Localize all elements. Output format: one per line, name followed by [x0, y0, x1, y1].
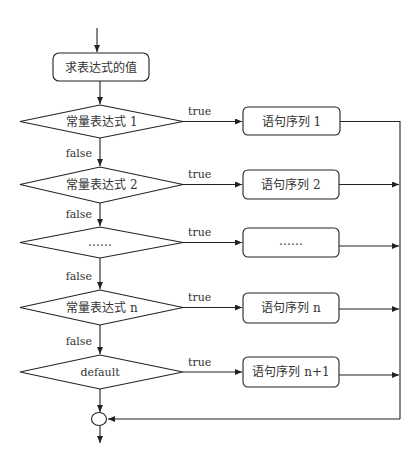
statement-3-label: …… [279, 234, 303, 248]
decision-3: …… [20, 227, 183, 258]
start-box: 求表达式的值 [53, 53, 149, 81]
decision-2: 常量表达式 2 [20, 167, 183, 203]
statement-box-1: 语句序列 1 [243, 107, 340, 135]
decision-default-label: default [80, 366, 120, 379]
decision-default: default [20, 355, 183, 389]
statement-box-3: …… [243, 228, 339, 257]
true-label-3: true [188, 226, 211, 239]
false-label-2: false [66, 208, 92, 221]
true-label-default: true [188, 356, 211, 369]
decision-n: 常量表达式 n [20, 290, 183, 325]
decision-2-label: 常量表达式 2 [66, 178, 137, 192]
false-label-n: false [66, 335, 92, 348]
statement-box-2: 语句序列 2 [243, 170, 339, 199]
decision-n-label: 常量表达式 n [66, 301, 138, 315]
decision-1: 常量表达式 1 [20, 105, 183, 138]
switch-flowchart: 求表达式的值 常量表达式 1 true 语句序列 1 false 常量表达式 2… [0, 0, 412, 456]
merge-line-right [340, 122, 400, 420]
statement-n-label: 语句序列 n [261, 300, 321, 315]
false-label-1: false [66, 147, 92, 160]
statement-2-label: 语句序列 2 [261, 177, 320, 192]
decision-3-label: …… [88, 235, 112, 249]
statement-1-label: 语句序列 1 [262, 114, 321, 129]
false-label-3: false [66, 270, 92, 283]
statement-default-label: 语句序列 n+1 [252, 364, 329, 379]
merge-node [92, 413, 107, 426]
start-box-label: 求表达式的值 [65, 60, 137, 75]
decision-1-label: 常量表达式 1 [66, 115, 137, 129]
statement-box-n: 语句序列 n [243, 293, 339, 323]
true-label-n: true [188, 291, 211, 304]
true-label-1: true [188, 105, 211, 118]
statement-box-default: 语句序列 n+1 [243, 357, 339, 387]
true-label-2: true [188, 168, 211, 181]
